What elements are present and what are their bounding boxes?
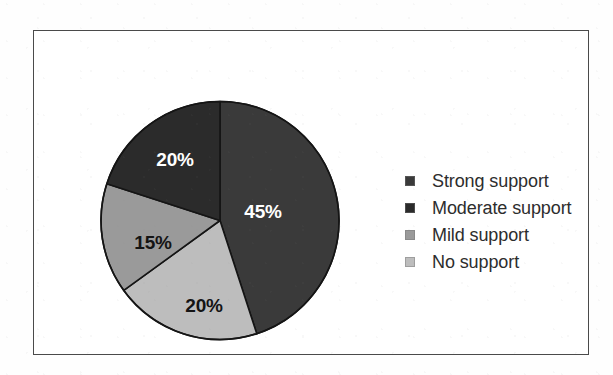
- legend-item-strong-support[interactable]: Strong support: [405, 167, 605, 194]
- legend-swatch-icon-no-support: [405, 257, 415, 267]
- chart-legend: Strong support Moderate support Mild sup…: [405, 167, 605, 275]
- legend-swatch-icon-mild-support: [405, 230, 415, 240]
- legend-swatch-icon-strong-support: [405, 176, 415, 186]
- legend-label-moderate-support: Moderate support: [432, 199, 571, 217]
- figure-page: 45%20%15%20% Strong support Moderate sup…: [0, 0, 613, 375]
- legend-label-no-support: No support: [432, 253, 519, 271]
- pie-slice-value-no-support: 20%: [185, 295, 223, 316]
- pie-chart: 45%20%15%20%: [100, 100, 340, 341]
- pie-slice-value-strong-support: 45%: [244, 201, 282, 222]
- pie-chart-svg: 45%20%15%20%: [100, 100, 340, 341]
- figure-frame: 45%20%15%20% Strong support Moderate sup…: [33, 30, 589, 355]
- legend-label-strong-support: Strong support: [432, 172, 549, 190]
- legend-item-no-support[interactable]: No support: [405, 248, 605, 275]
- legend-label-mild-support: Mild support: [432, 226, 529, 244]
- legend-item-mild-support[interactable]: Mild support: [405, 221, 605, 248]
- legend-item-moderate-support[interactable]: Moderate support: [405, 194, 605, 221]
- pie-slice-value-mild-support: 15%: [134, 232, 172, 253]
- pie-slice-value-moderate-support: 20%: [156, 149, 194, 170]
- legend-swatch-icon-moderate-support: [405, 203, 415, 213]
